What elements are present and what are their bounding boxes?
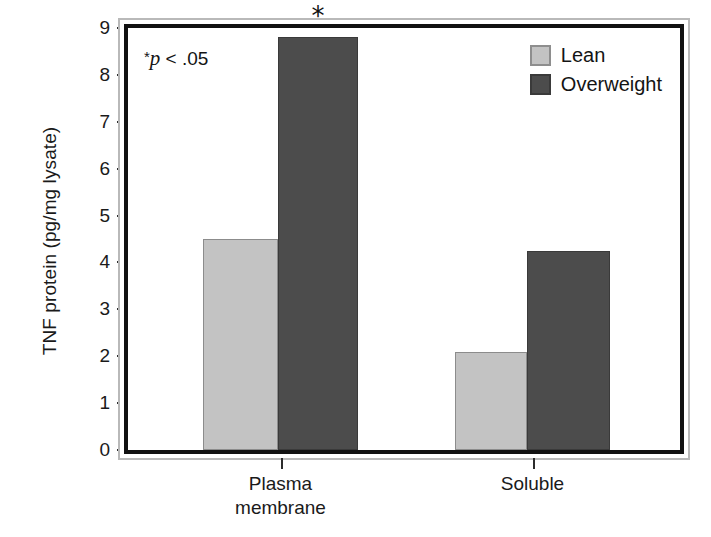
y-tick-label: 8 [80, 65, 110, 85]
bar-soluble-lean [455, 352, 527, 450]
plot-frame-outer: *p < .05 * LeanOverweight [118, 18, 690, 460]
bar-plasma-membrane-overweight [278, 37, 358, 450]
y-tick-label: 9 [80, 18, 110, 38]
y-tick-label: 6 [80, 159, 110, 179]
x-group-plasma-membrane: Plasmamembrane [181, 458, 381, 520]
p-note-rest: < .05 [160, 48, 208, 69]
legend-item-overweight: Overweight [530, 73, 662, 96]
significance-star: * [312, 3, 325, 29]
legend-label: Overweight [561, 73, 662, 96]
bar-plasma-membrane-lean [203, 239, 278, 450]
x-axis-label-line1: Soluble [433, 472, 633, 496]
y-tick-label: 7 [80, 112, 110, 132]
y-tick-label: 4 [80, 252, 110, 272]
legend-label: Lean [561, 44, 606, 67]
x-axis-label: Plasmamembrane [181, 472, 381, 520]
x-group-soluble: Soluble [433, 458, 633, 496]
legend-swatch-lean [530, 45, 551, 66]
legend-item-lean: Lean [530, 44, 662, 67]
y-tick-label: 2 [80, 346, 110, 366]
plot-frame-inner: *p < .05 * LeanOverweight [124, 24, 684, 454]
y-tick-label: 1 [80, 393, 110, 413]
p-note-italic: p [150, 46, 161, 70]
y-tick-label: 0 [80, 440, 110, 460]
x-axis-label-line1: Plasma [181, 472, 381, 496]
x-tick-mark [281, 458, 283, 469]
x-tick-mark [533, 458, 535, 469]
y-tick-label: 5 [80, 206, 110, 226]
y-tick-label: 3 [80, 299, 110, 319]
x-axis: PlasmamembraneSoluble [118, 458, 690, 537]
plot-area: *p < .05 * LeanOverweight [128, 28, 680, 450]
legend-swatch-overweight [530, 74, 551, 95]
legend: LeanOverweight [530, 44, 662, 96]
bar-soluble-overweight [527, 251, 610, 450]
bar-chart-figure: TNF protein (pg/mg lysate) 9876543210 *p… [0, 0, 711, 537]
p-value-annotation: *p < .05 [144, 46, 208, 71]
x-axis-label-line2: membrane [181, 496, 381, 520]
x-axis-label: Soluble [433, 472, 633, 496]
